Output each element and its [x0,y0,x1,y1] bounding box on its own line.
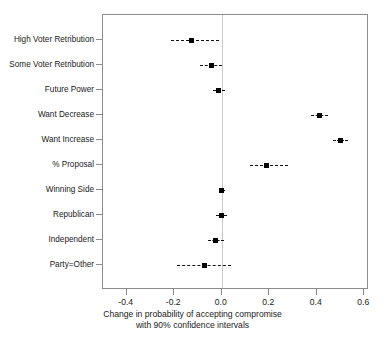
y-axis-label: Independent [48,235,94,244]
y-axis-label: Some Voter Retribution [9,60,94,69]
y-axis-tick [96,114,102,115]
plot-area [103,15,367,288]
x-axis: -0.4-0.20.00.20.40.6 [102,289,368,290]
x-axis-caption-line2: with 90% confidence intervals [0,320,385,331]
estimate-point [317,113,322,118]
x-axis-tick [268,289,269,295]
y-axis-label: Want Increase [42,135,94,144]
y-axis-label: Party=Other [50,260,94,269]
estimate-point [202,263,207,268]
y-axis-tick [96,264,102,265]
x-axis-tick [173,289,174,295]
x-axis-tick-label: 0.0 [215,297,227,307]
y-axis-tick [96,139,102,140]
x-axis-tick [316,289,317,295]
x-axis-tick [221,289,222,295]
confidence-interval-bar [171,40,218,41]
x-axis-caption: Change in probability of accepting compr… [0,309,385,331]
estimate-point [209,63,214,68]
x-axis-tick [126,289,127,295]
y-axis-label: Republican [53,210,94,219]
y-axis-label: High Voter Retribution [14,35,94,44]
x-axis-tick-label: 0.2 [262,297,274,307]
y-axis-tick [96,239,102,240]
x-axis-tick-label: 0.6 [357,297,369,307]
plot-frame [102,14,368,289]
y-axis-label: Future Power [45,85,94,94]
x-axis-tick-label: -0.2 [166,297,181,307]
y-axis-label: Want Decrease [38,110,94,119]
y-axis-tick [96,89,102,90]
confidence-interval-bar [250,165,288,166]
estimate-point [213,238,218,243]
estimate-point [219,213,224,218]
zero-reference-line [222,15,223,288]
y-axis-tick [96,164,102,165]
estimate-point [264,163,269,168]
y-axis-label: Winning Side [46,185,94,194]
y-axis-tick [96,64,102,65]
x-axis-tick-label: 0.4 [310,297,322,307]
coefficient-plot-figure: -0.4-0.20.00.20.40.6 Change in probabili… [0,0,385,343]
y-axis-tick [96,214,102,215]
y-axis-label: % Proposal [52,160,94,169]
y-axis-tick [96,39,102,40]
y-axis-tick [96,189,102,190]
x-axis-tick [363,289,364,295]
estimate-point [219,188,224,193]
estimate-point [216,88,221,93]
x-axis-tick-label: -0.4 [118,297,133,307]
estimate-point [338,138,343,143]
x-axis-caption-line1: Change in probability of accepting compr… [0,309,385,320]
estimate-point [189,38,194,43]
